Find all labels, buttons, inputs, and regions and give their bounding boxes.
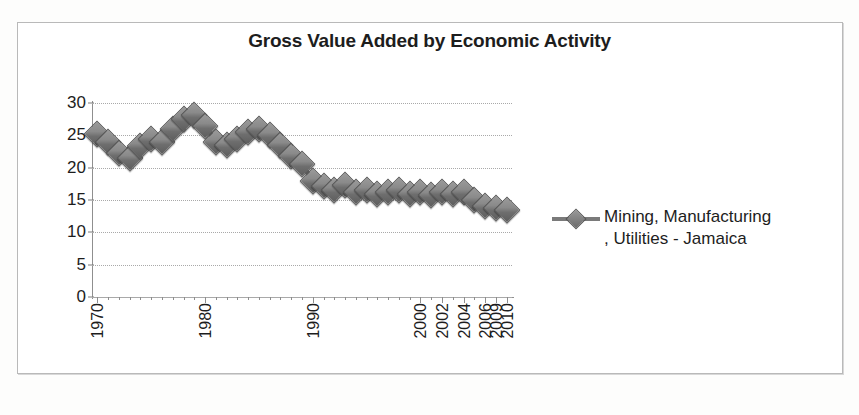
x-axis-tick — [194, 297, 195, 300]
x-axis-labels: 197019801990200020022004200620092010 — [92, 303, 514, 373]
legend-label-line2: , Utilities - Jamaica — [604, 228, 771, 250]
x-axis-tick — [302, 297, 303, 300]
x-axis-tick — [237, 297, 238, 300]
legend-marker-icon — [552, 208, 600, 228]
x-axis-tick-label: 2000 — [412, 303, 430, 339]
x-axis-tick — [356, 297, 357, 300]
x-axis-tick — [377, 297, 378, 300]
x-axis-tick — [259, 297, 260, 300]
x-axis-tick — [280, 297, 281, 300]
series-mining-manufacturing-utilities-jamaica — [92, 103, 512, 297]
x-axis-tick — [291, 297, 292, 300]
x-axis-tick — [119, 297, 120, 300]
y-axis-tick-label: 10 — [46, 222, 86, 242]
x-axis-tick — [334, 297, 335, 300]
x-axis-tick-label: 2010 — [499, 303, 517, 339]
y-axis-tick-label: 30 — [46, 93, 86, 113]
x-axis-tick — [324, 297, 325, 300]
x-axis-tick — [453, 297, 454, 300]
legend-label: Mining, Manufacturing , Utilities - Jama… — [604, 206, 771, 250]
x-axis-tick — [388, 297, 389, 300]
x-axis-tick — [173, 297, 174, 300]
x-axis-tick — [216, 297, 217, 300]
x-axis-tick — [108, 297, 109, 300]
x-axis-tick — [367, 297, 368, 300]
x-axis-tick — [162, 297, 163, 300]
plot-area — [92, 103, 512, 297]
x-axis-tick — [227, 297, 228, 300]
x-axis-tick-label: 1980 — [197, 303, 215, 339]
y-axis-tick-label: 15 — [46, 190, 86, 210]
x-axis-tick — [248, 297, 249, 300]
chart-legend: Mining, Manufacturing , Utilities - Jama… — [552, 206, 822, 250]
chart-title: Gross Value Added by Economic Activity — [0, 30, 859, 52]
x-axis-tick-label: 2002 — [434, 303, 452, 339]
legend-label-line1: Mining, Manufacturing — [604, 206, 771, 228]
x-axis-tick — [474, 297, 475, 300]
y-axis-tick-label: 25 — [46, 125, 86, 145]
x-axis-tick — [345, 297, 346, 300]
x-axis-tick — [184, 297, 185, 300]
y-axis-tick-label: 0 — [46, 287, 86, 307]
x-axis-tick — [431, 297, 432, 300]
x-axis-tick — [130, 297, 131, 300]
x-axis-tick-label: 2004 — [456, 303, 474, 339]
x-axis-tick — [151, 297, 152, 300]
x-axis-tick — [140, 297, 141, 300]
x-axis-tick — [410, 297, 411, 300]
x-axis-tick-label: 1970 — [89, 303, 107, 339]
x-axis-tick-label: 1990 — [305, 303, 323, 339]
y-axis-tick-label: 5 — [46, 255, 86, 275]
x-axis-tick — [399, 297, 400, 300]
x-axis-tick — [270, 297, 271, 300]
y-axis-tick-label: 20 — [46, 158, 86, 178]
y-axis-labels: 302520151050 — [26, 103, 86, 297]
